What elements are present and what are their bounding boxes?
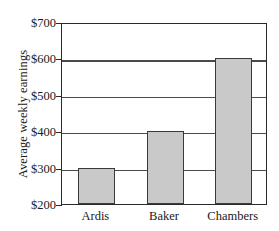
y-axis-tick-label: $200 <box>16 199 56 211</box>
y-axis-tick-label: $500 <box>16 90 56 102</box>
x-axis-category-labels: ArdisBakerChambers <box>61 208 267 228</box>
y-axis-tick-label: $300 <box>16 163 56 175</box>
bar[interactable] <box>215 58 252 204</box>
bar-chart: Average weekly earnings $700$600$500$400… <box>0 0 279 231</box>
bar[interactable] <box>78 168 115 204</box>
y-axis-tick-label: $600 <box>16 53 56 65</box>
x-axis-category-label: Chambers <box>198 208 267 224</box>
y-axis-tick-labels: $700$600$500$400$300$200 <box>14 0 56 231</box>
x-axis-category-label: Ardis <box>61 208 130 224</box>
y-axis-tick-label: $700 <box>16 17 56 29</box>
y-axis-tick-label: $400 <box>16 126 56 138</box>
x-axis-category-label: Baker <box>130 208 199 224</box>
y-axis-tick-mark <box>56 205 62 206</box>
plot-area <box>61 23 267 205</box>
bar[interactable] <box>147 131 184 204</box>
